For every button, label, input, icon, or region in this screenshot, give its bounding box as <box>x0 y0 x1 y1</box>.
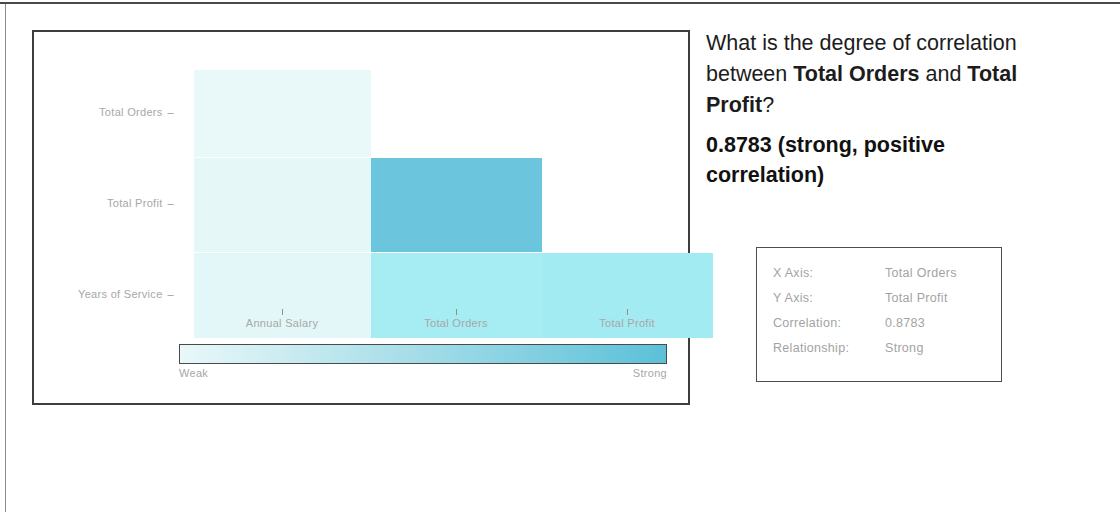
info-row-key: X Axis: <box>773 260 885 285</box>
info-row-key: Relationship: <box>773 335 885 360</box>
question-bold-total-orders: Total Orders <box>793 62 919 86</box>
page-left-edge <box>5 4 6 512</box>
colorbar-legend: Weak Strong <box>179 344 667 385</box>
info-table: X Axis:Total OrdersY Axis:Total ProfitCo… <box>773 260 985 360</box>
info-row: X Axis:Total Orders <box>773 260 985 285</box>
heatmap-cell[interactable] <box>194 70 371 157</box>
y-axis-tick-label: Total Orders– <box>4 106 174 118</box>
info-row: Correlation:0.8783 <box>773 310 985 335</box>
correlation-heatmap-panel: Total Orders–Total Profit–Years of Servi… <box>32 30 690 405</box>
answer-text: 0.8783 (strong, positive correlation) <box>706 130 1056 190</box>
info-row-value: Total Profit <box>885 285 985 310</box>
colorbar-low-label: Weak <box>179 367 208 379</box>
y-axis-tick-label: Total Profit– <box>4 197 174 209</box>
x-axis-tick-label: Total Orders <box>366 317 546 329</box>
info-row-value: Strong <box>885 335 985 360</box>
colorbar-label-row: Weak Strong <box>179 367 667 385</box>
y-axis-tick-label: Years of Service– <box>4 288 174 300</box>
info-row-key: Y Axis: <box>773 285 885 310</box>
x-axis-tick-label: Total Profit <box>537 317 717 329</box>
info-row: Relationship:Strong <box>773 335 985 360</box>
heatmap-cell[interactable] <box>194 158 371 252</box>
question-suffix: ? <box>762 93 774 117</box>
x-axis-tick-label: Annual Salary <box>192 317 372 329</box>
colorbar-gradient <box>179 344 667 364</box>
info-row-value: 0.8783 <box>885 310 985 335</box>
question-answer-block: What is the degree of correlation betwee… <box>706 28 1056 190</box>
info-row-value: Total Orders <box>885 260 985 285</box>
x-axis-tick-mark <box>627 309 628 315</box>
page-top-edge <box>0 2 1120 4</box>
info-table-body: X Axis:Total OrdersY Axis:Total ProfitCo… <box>773 260 985 360</box>
info-row-key: Correlation: <box>773 310 885 335</box>
correlation-info-box: X Axis:Total OrdersY Axis:Total ProfitCo… <box>756 247 1002 382</box>
question-mid: and <box>920 62 968 86</box>
info-row: Y Axis:Total Profit <box>773 285 985 310</box>
x-axis-tick-mark <box>456 309 457 315</box>
x-axis-tick-mark <box>282 309 283 315</box>
question-text: What is the degree of correlation betwee… <box>706 28 1056 121</box>
heatmap-cell[interactable] <box>371 158 542 252</box>
colorbar-high-label: Strong <box>633 367 667 379</box>
